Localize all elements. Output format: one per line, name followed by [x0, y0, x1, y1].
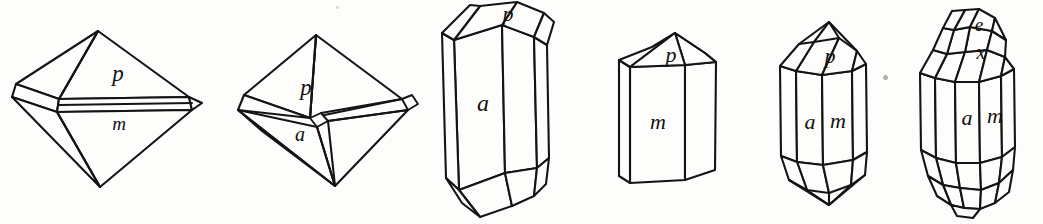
figure-5-label-m: m [830, 108, 846, 133]
figure-4-label-m: m [650, 109, 666, 134]
figure-6-label-m: m [987, 103, 1003, 128]
figure-5-prism-two-face-forms: p a m [767, 0, 907, 224]
figure-2-bipyramid-with-small-basal-face: p a [222, 0, 422, 224]
figure-5-label-a: a [805, 109, 816, 134]
figure-6-prism-with-modifying-forms: e x a m [907, 0, 1043, 224]
figure-1-bipyramid-with-prism-band: p m [0, 0, 222, 224]
crystal-figure-plate: p m p a [0, 0, 1043, 224]
figure-1-label-p: p [110, 61, 124, 86]
figure-2-label-a: a [295, 123, 305, 145]
scan-speck-2 [336, 6, 339, 9]
figure-6-label-a: a [962, 105, 973, 130]
figure-5-label-p: p [823, 43, 836, 68]
figure-4-label-p: p [664, 42, 677, 67]
figure-3-long-prism-doubly-terminated: p a [422, 0, 597, 224]
figure-2-label-p: p [298, 75, 312, 100]
figure-6-label-x: x [976, 41, 986, 63]
figure-3-label-p: p [501, 1, 514, 26]
figure-1-label-m: m [112, 113, 126, 134]
figure-4-short-prism-pyramidal-cap: p m [597, 0, 767, 224]
figure-3-label-a: a [477, 90, 489, 116]
figure-6-label-e: e [975, 14, 983, 35]
scan-speck-1 [883, 75, 888, 80]
